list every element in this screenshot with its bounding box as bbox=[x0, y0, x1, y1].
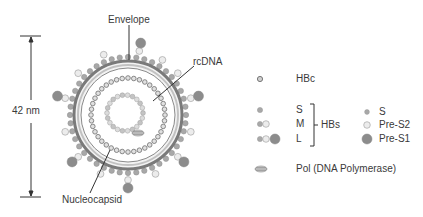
legend-hbs-group-label: HBs bbox=[321, 120, 340, 130]
hbs-l-icon-pres1 bbox=[270, 134, 280, 144]
virion bbox=[53, 38, 204, 193]
rcdna-label: rcDNA bbox=[193, 57, 222, 67]
legend-pol-label: Pol (DNA Polymerase) bbox=[296, 164, 396, 174]
envelope-label: Envelope bbox=[108, 15, 150, 25]
scale-bar-label: 42 nm bbox=[12, 106, 40, 116]
hbs-m-icon-pres2 bbox=[263, 121, 270, 128]
legend-hbs-m-label: M bbox=[296, 119, 304, 129]
domain-pres2-icon bbox=[364, 122, 371, 129]
legend-hbc-label: HBc bbox=[296, 74, 315, 84]
domain-pres1-icon bbox=[362, 134, 372, 144]
hbs-l-icon-s bbox=[257, 136, 262, 141]
legend-hbs-s-label: S bbox=[296, 105, 303, 115]
nucleocapsid-label: Nucleocapsid bbox=[62, 195, 122, 205]
legend-domain-pres1-label: Pre-S1 bbox=[379, 134, 410, 144]
polymerase-icon bbox=[132, 130, 144, 136]
legend-hbs-l-label: L bbox=[296, 134, 302, 144]
hbs-bracket bbox=[310, 104, 314, 146]
scale-bar bbox=[20, 36, 41, 197]
hbs-s-icon bbox=[257, 107, 262, 112]
pol-legend-icon bbox=[255, 166, 267, 172]
hbs-l-icon-pres2 bbox=[263, 136, 270, 143]
hbv-diagram-canvas bbox=[0, 0, 423, 217]
legend-domain-pres2-label: Pre-S2 bbox=[379, 120, 410, 130]
legend-icons bbox=[255, 76, 372, 172]
legend-domain-s-label: S bbox=[379, 107, 386, 117]
hbs-m-icon-s bbox=[257, 121, 262, 126]
domain-s-icon bbox=[365, 110, 370, 115]
hbc-icon bbox=[257, 76, 262, 81]
